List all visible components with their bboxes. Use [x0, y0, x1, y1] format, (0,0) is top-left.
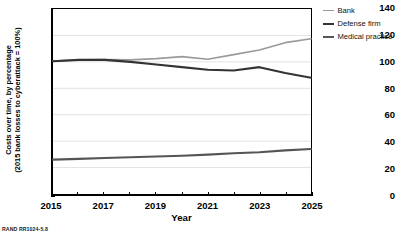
data-series-layer — [53, 9, 311, 194]
y-axis-tick-label: 20 — [351, 164, 395, 174]
chart-legend: BankDefense firmMedical practice — [323, 5, 395, 44]
x-axis-tick-label: 2021 — [197, 200, 218, 211]
legend-label: Medical practice — [338, 32, 393, 41]
legend-item: Medical practice — [323, 31, 395, 43]
x-axis-tick-mark — [182, 192, 183, 196]
x-axis-title: Year — [51, 212, 312, 223]
legend-label: Defense firm — [338, 19, 381, 28]
x-axis-tick-mark — [77, 192, 78, 196]
legend-line-swatch — [323, 10, 334, 11]
plot-area — [51, 8, 312, 196]
x-axis-tick-mark — [103, 192, 104, 196]
x-axis-tick-label: 2023 — [249, 200, 270, 211]
series-line-bank — [53, 39, 311, 61]
x-axis-tick-label: 2025 — [301, 200, 322, 211]
x-axis-tick-label: 2019 — [145, 200, 166, 211]
x-axis-tick-mark — [51, 192, 52, 196]
y-axis-title-line2: (2015 bank losses to cyberattack = 100%) — [13, 27, 22, 172]
chart-figure: Costs over time, by percentage (2015 ban… — [0, 0, 395, 239]
x-axis-tick-label: 2017 — [93, 200, 114, 211]
x-axis-tick-mark — [234, 192, 235, 196]
x-axis-tick-mark — [312, 192, 313, 196]
legend-item: Bank — [323, 5, 395, 17]
y-axis-tick-label: 80 — [351, 84, 395, 94]
x-axis-tick-mark — [208, 192, 209, 196]
y-axis-tick-label: 0 — [351, 191, 395, 201]
x-axis-tick-mark — [155, 192, 156, 196]
y-axis-title: Costs over time, by percentage (2015 ban… — [0, 0, 26, 200]
legend-line-swatch — [323, 23, 334, 25]
y-axis-tick-label: 40 — [351, 137, 395, 147]
y-axis-tick-label: 100 — [351, 57, 395, 67]
legend-label: Bank — [338, 6, 355, 15]
series-line-defense-firm — [53, 60, 311, 78]
x-axis-tick-mark — [129, 192, 130, 196]
series-line-medical-practice — [53, 149, 311, 160]
legend-item: Defense firm — [323, 18, 395, 30]
x-axis-tick-mark — [260, 192, 261, 196]
x-axis-tick-label: 2015 — [40, 200, 61, 211]
y-axis-tick-label: 60 — [351, 110, 395, 120]
source-note: RAND RR1024-5.8 — [2, 226, 48, 232]
legend-line-swatch — [323, 36, 334, 38]
y-axis-tick-mark — [51, 196, 55, 197]
x-axis-tick-mark — [286, 192, 287, 196]
y-axis-title-line1: Costs over time, by percentage — [4, 45, 13, 155]
